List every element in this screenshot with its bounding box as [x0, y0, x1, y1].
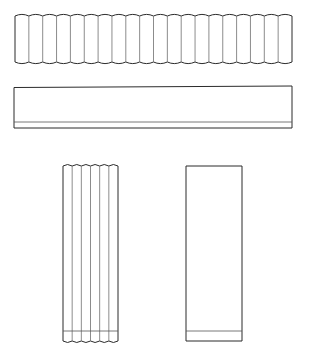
panel-outline [186, 166, 242, 341]
drawing-canvas: Corrugated and flat panel orthographic v… [0, 0, 312, 352]
technical-line-drawing: Corrugated and flat panel orthographic v… [0, 0, 312, 352]
shape-vertical-flat-panel [186, 166, 242, 341]
shape-horizontal-corrugated-strip [15, 14, 292, 63]
shape-vertical-corrugated-panel [63, 165, 118, 343]
shape-horizontal-flat-panel [14, 86, 292, 128]
